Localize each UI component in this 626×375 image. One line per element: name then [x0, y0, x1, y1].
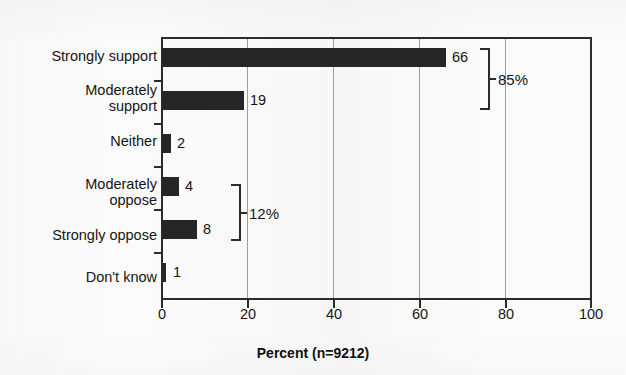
bar-dont-know[interactable] [162, 263, 166, 282]
y-axis-tick-4 [154, 209, 161, 211]
category-label-moderately-support: Moderately support [0, 82, 157, 114]
annotation-label-oppose: 12% [249, 204, 279, 221]
x-axis-label-0: 0 [137, 306, 187, 322]
bar-value-moderately-oppose: 4 [185, 177, 193, 196]
gridline-20 [247, 39, 248, 298]
category-label-strongly-oppose: Strongly oppose [0, 227, 157, 243]
bar-moderately-oppose[interactable] [162, 177, 179, 196]
bar-strongly-support[interactable] [162, 48, 446, 67]
bar-strongly-oppose[interactable] [162, 220, 197, 239]
y-axis-tick-5 [154, 252, 161, 254]
category-label-moderately-oppose: Moderately oppose [0, 176, 157, 208]
y-axis-tick-2 [154, 123, 161, 125]
bar-value-neither: 2 [177, 134, 185, 153]
bracket-nub [240, 212, 247, 214]
category-label-neither: Neither [0, 133, 157, 149]
annotation-label-support: 85% [498, 71, 528, 88]
x-axis-title: Percent (n=9212) [0, 345, 626, 361]
x-axis-label-100: 100 [566, 306, 616, 322]
y-axis-tick-3 [154, 166, 161, 168]
x-axis-label-80: 80 [481, 306, 531, 322]
bar-value-dont-know: 1 [173, 263, 181, 282]
x-axis-label-60: 60 [395, 306, 445, 322]
chart-title-clipped [0, 0, 626, 3]
bar-value-moderately-support: 19 [250, 91, 266, 110]
x-axis-label-40: 40 [309, 306, 359, 322]
bracket-nub [489, 78, 496, 80]
bracket-arm-bottom [231, 239, 241, 241]
bar-value-strongly-support: 66 [452, 48, 468, 67]
gridline-60 [419, 39, 420, 298]
category-label-strongly-support: Strongly support [0, 48, 157, 64]
horizontal-bar-chart: Strongly support Moderately support Neit… [0, 0, 626, 375]
bar-neither[interactable] [162, 134, 171, 153]
y-axis-tick-1 [154, 80, 161, 82]
bar-moderately-support[interactable] [162, 91, 244, 110]
x-axis-label-20: 20 [223, 306, 273, 322]
gridline-40 [333, 39, 334, 298]
category-label-dont-know: Don't know [0, 269, 157, 285]
bar-value-strongly-oppose: 8 [203, 220, 211, 239]
bracket-arm-bottom [480, 108, 490, 110]
